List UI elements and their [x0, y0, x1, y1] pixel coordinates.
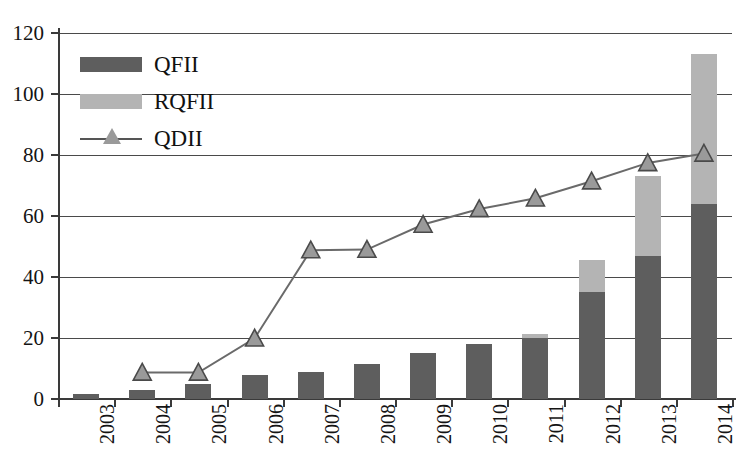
x-axis-tick-label: 2004: [152, 404, 175, 444]
y-axis-tick-mark: [51, 337, 60, 339]
legend-swatch-rqfii-icon: [80, 94, 142, 109]
legend-triangle-marker-icon: [103, 128, 121, 144]
x-axis-tick-label: 2003: [96, 404, 119, 444]
x-axis-tick-label: 2007: [321, 404, 344, 444]
x-axis-tick-label: 2005: [208, 404, 231, 444]
legend-label-qfii: QFII: [154, 48, 199, 81]
y-axis-tick-label: 100: [13, 82, 45, 107]
qdii-triangle-marker-icon: [414, 216, 432, 233]
x-axis-tick-label: 2013: [658, 404, 681, 444]
y-axis-tick-mark: [51, 276, 60, 278]
y-axis-tick-label: 0: [34, 387, 45, 412]
x-axis-tick-label: 2010: [489, 404, 512, 444]
y-axis-tick-label: 80: [23, 143, 44, 168]
legend-label-rqfii: RQFII: [154, 85, 214, 118]
x-axis-tick-label: 2011: [545, 404, 568, 443]
qdii-triangle-marker-icon: [246, 329, 264, 346]
x-axis-tick-mark: [58, 399, 60, 407]
qdii-triangle-marker-icon: [695, 144, 713, 161]
y-axis-labels: 020406080100120: [0, 33, 52, 399]
legend-item-qdii: QDII: [80, 122, 260, 159]
legend-item-rqfii: RQFII: [80, 85, 260, 122]
x-axis-tick-label: 2006: [265, 404, 288, 444]
legend-item-qfii: QFII: [80, 48, 260, 85]
legend-swatch-qfii-icon: [80, 57, 142, 72]
x-axis-tick-label: 2014: [714, 404, 737, 444]
chart-legend: QFII RQFII QDII: [80, 48, 260, 159]
qdii-triangle-marker-icon: [583, 172, 601, 189]
y-axis-tick-label: 40: [23, 265, 44, 290]
y-axis-tick-label: 60: [23, 204, 44, 229]
y-axis-tick-mark: [51, 215, 60, 217]
x-axis-tick-label: 2009: [433, 404, 456, 444]
y-axis-tick-mark: [51, 93, 60, 95]
y-axis-tick-mark: [51, 154, 60, 156]
qdii-triangle-marker-icon: [526, 189, 544, 206]
y-axis-tick-mark: [51, 398, 60, 400]
chart-container: 020406080100120 200320042005200620072008…: [0, 0, 755, 471]
y-axis-tick-label: 20: [23, 326, 44, 351]
y-axis-tick-label: 120: [13, 21, 45, 46]
x-axis-tick-label: 2012: [602, 404, 625, 444]
x-axis-tick-label: 2008: [377, 404, 400, 444]
legend-label-qdii: QDII: [154, 122, 203, 155]
y-axis-tick-mark: [51, 32, 60, 34]
qdii-line-path: [142, 154, 704, 373]
